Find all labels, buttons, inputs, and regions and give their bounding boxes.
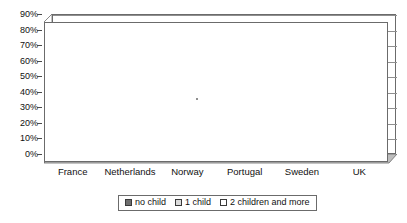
x-axis-category-label: Sweden bbox=[273, 166, 330, 177]
x-axis-category-label: Norway bbox=[159, 166, 216, 177]
legend-label-1-child: 1 child bbox=[185, 198, 211, 207]
legend-swatch-icon-no-child bbox=[125, 199, 132, 206]
legend-swatch-icon-2-children-and-more bbox=[220, 199, 227, 206]
x-axis-category-label: Netherlands bbox=[101, 166, 158, 177]
x-axis-category-label: Portugal bbox=[216, 166, 273, 177]
x-axis-category-label: France bbox=[44, 166, 101, 177]
x-axis-category-label: UK bbox=[331, 166, 388, 177]
plot-front-frame bbox=[44, 22, 388, 162]
legend-item-1-child: 1 child bbox=[175, 198, 211, 207]
x-axis-labels: FranceNetherlandsNorwayPortugalSwedenUK bbox=[0, 166, 407, 184]
scan-artifact-speck bbox=[196, 98, 198, 100]
bar-chart: 0%10%20%30%40%50%60%70%80%90% FranceNeth… bbox=[0, 0, 407, 223]
legend: no child 1 child 2 children and more bbox=[118, 195, 317, 211]
legend-item-no-child: no child bbox=[125, 198, 166, 207]
legend-label-no-child: no child bbox=[135, 198, 166, 207]
legend-swatch-icon-1-child bbox=[175, 199, 182, 206]
legend-label-2-children-and-more: 2 children and more bbox=[230, 198, 310, 207]
plot-area: 0%10%20%30%40%50%60%70%80%90% bbox=[0, 0, 407, 190]
legend-item-2-children-and-more: 2 children and more bbox=[220, 198, 310, 207]
